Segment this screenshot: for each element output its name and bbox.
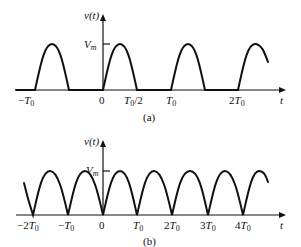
x-axis-arrow-b: [279, 212, 286, 218]
x-axis-arrow-a: [279, 87, 286, 93]
t-label-b: t: [280, 219, 284, 231]
y-label-b: v(t): [84, 135, 100, 148]
tick-T0-half-a: T0/2: [124, 94, 143, 108]
y-axis-arrow-b: [100, 140, 106, 147]
caption-a: (a): [143, 111, 156, 124]
tick-3T0-b: 3T0: [200, 219, 216, 233]
tick-T0-a: T0: [166, 94, 176, 108]
t-label-a: t: [280, 94, 284, 106]
tick-2T0-a: 2T0: [229, 94, 245, 108]
tick-minus-T0-a: −T0: [18, 94, 34, 108]
vm-label-b: Vm: [86, 164, 99, 178]
waveform-a: [16, 44, 268, 90]
waveform-b: [24, 171, 268, 215]
tick-0-b: 0: [99, 219, 105, 231]
tick-2T0-b: 2T0: [164, 219, 180, 233]
tick-minus-T0-b: −T0: [58, 219, 74, 233]
y-label-a: v(t): [84, 9, 100, 22]
caption-b: (b): [143, 235, 156, 247]
y-axis-arrow-a: [100, 14, 106, 21]
tick-T0-b: T0: [133, 219, 143, 233]
tick-0-a: 0: [99, 94, 105, 106]
tick-4T0-b: 4T0: [235, 219, 251, 233]
rectified-waveforms-diagram: v(t) Vm t −T0 0 T0/2 T0 2T0 (a) v(t) Vm …: [0, 0, 301, 247]
vm-label-a: Vm: [84, 38, 97, 52]
panel-b: v(t) Vm t −2T0 −T0 0 T0 2T0 3T0 4T0 (b): [16, 135, 286, 247]
panel-a: v(t) Vm t −T0 0 T0/2 T0 2T0 (a): [16, 9, 286, 124]
tick-minus-2T0-b: −2T0: [17, 219, 39, 233]
